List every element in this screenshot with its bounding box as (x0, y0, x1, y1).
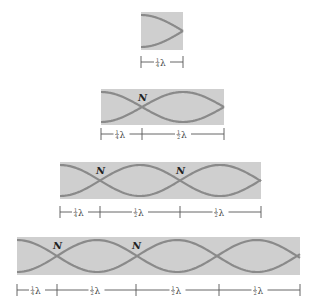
harmonic-panel-1: 14λ (141, 12, 183, 68)
tube (101, 89, 224, 125)
svg-text:2: 2 (172, 290, 175, 296)
length-label: 12λ (90, 285, 101, 296)
svg-text:4: 4 (74, 212, 77, 218)
harmonic-panel-4: NN14λ12λ12λ12λ (17, 237, 300, 296)
node-label: N (175, 165, 186, 176)
length-label: 12λ (253, 285, 264, 296)
length-label: 14λ (74, 207, 85, 218)
svg-text:λ: λ (138, 208, 144, 218)
svg-text:2: 2 (177, 134, 180, 140)
svg-text:2: 2 (254, 290, 257, 296)
svg-text:λ: λ (35, 286, 41, 296)
svg-text:λ: λ (95, 286, 101, 296)
svg-text:λ: λ (258, 286, 264, 296)
node-label: N (131, 240, 142, 251)
svg-text:λ: λ (78, 208, 84, 218)
tube (141, 12, 183, 50)
svg-text:λ: λ (120, 130, 126, 140)
node-label: N (137, 92, 148, 103)
length-label: 12λ (134, 207, 145, 218)
length-label: 14λ (31, 285, 42, 296)
length-label: 12λ (214, 207, 225, 218)
harmonic-panel-3: NN14λ12λ12λ (60, 162, 261, 218)
length-label: 12λ (171, 285, 182, 296)
tube (60, 162, 261, 199)
svg-text:λ: λ (160, 58, 166, 68)
svg-text:2: 2 (215, 212, 218, 218)
svg-text:4: 4 (31, 290, 34, 296)
svg-text:4: 4 (156, 62, 159, 68)
svg-text:2: 2 (91, 290, 94, 296)
svg-text:λ: λ (176, 286, 182, 296)
svg-text:λ: λ (181, 130, 187, 140)
svg-text:2: 2 (134, 212, 137, 218)
length-label: 14λ (156, 57, 167, 68)
length-label: 12λ (177, 129, 188, 140)
svg-text:4: 4 (116, 134, 119, 140)
length-label: 14λ (115, 129, 126, 140)
svg-text:λ: λ (219, 208, 225, 218)
standing-wave-diagram: 14λN14λ12λNN14λ12λ12λNN14λ12λ12λ12λ (0, 0, 312, 307)
node-label: N (95, 165, 106, 176)
node-label: N (52, 240, 63, 251)
harmonic-panel-2: N14λ12λ (101, 89, 224, 140)
